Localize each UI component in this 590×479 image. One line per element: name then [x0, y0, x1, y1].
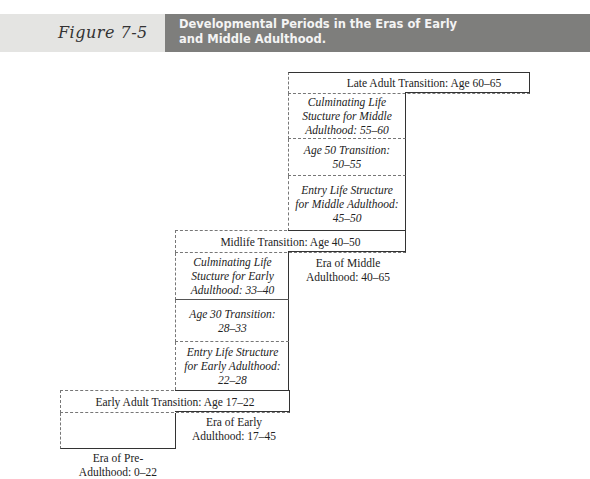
- culminating-middle-box: Culminating Life Stucture for Middle Adu…: [288, 93, 406, 139]
- text-line: Culminating Life: [302, 95, 392, 109]
- era-early-label: Era of Early Adulthood: 17–45: [178, 415, 290, 443]
- early-transition-top-solid: [175, 390, 290, 391]
- culminating-early-box: Culminating Life Stucture for Early Adul…: [175, 253, 289, 300]
- age-30-transition-box: Age 30 Transition: 28–33: [175, 300, 289, 342]
- figure-label-band: Figure 7-5: [0, 14, 165, 52]
- text-line: 45–50: [295, 211, 398, 225]
- early-adult-transition-label: Early Adult Transition: Age 17–22: [95, 395, 254, 409]
- figure-label: Figure 7-5: [58, 23, 148, 42]
- midlife-transition-label: Midlife Transition: Age 40–50: [220, 235, 360, 249]
- late-adult-transition-box: Late Adult Transition: Age 60–65: [288, 72, 530, 94]
- pre-adulthood-box: [60, 413, 176, 449]
- figure-title: Developmental Periods in the Eras of Ear…: [179, 17, 499, 47]
- text-line: Stucture for Middle: [302, 109, 392, 123]
- early-adult-transition-box: Early Adult Transition: Age 17–22: [60, 390, 290, 413]
- late-transition-bottom-solid: [405, 92, 530, 93]
- text-line: 28–33: [189, 321, 275, 335]
- entry-early-box: Entry Life Structure for Early Adulthood…: [175, 342, 289, 390]
- text-line: Adulthood: 0–22: [60, 465, 176, 479]
- era-pre-label: Era of Pre- Adulthood: 0–22: [60, 451, 176, 479]
- text-line: Age 50 Transition:: [304, 143, 390, 157]
- text-line: Culminating Life: [191, 255, 274, 269]
- text-line: Adulthood: 33–40: [191, 283, 274, 297]
- midlife-transition-box: Midlife Transition: Age 40–50: [175, 230, 406, 253]
- age-50-transition-box: Age 50 Transition: 50–55: [288, 139, 406, 176]
- text-line: for Middle Adulthood:: [295, 197, 398, 211]
- figure-title-line2: and Middle Adulthood.: [179, 32, 499, 47]
- text-line: for Early Adulthood:: [184, 359, 280, 373]
- era-middle-label: Era of Middle Adulthood: 40–65: [290, 256, 406, 284]
- text-line: Adulthood: 55–60: [302, 123, 392, 137]
- text-line: Era of Pre-: [60, 451, 176, 465]
- figure-title-band: Developmental Periods in the Eras of Ear…: [165, 14, 590, 52]
- figure-title-line1: Developmental Periods in the Eras of Ear…: [179, 17, 499, 32]
- midlife-bottom-solid: [288, 251, 406, 252]
- text-line: 50–55: [304, 157, 390, 171]
- text-line: Entry Life Structure: [295, 183, 398, 197]
- text-line: Era of Middle: [290, 256, 406, 270]
- text-line: 22–28: [184, 373, 280, 387]
- text-line: Adulthood: 40–65: [290, 270, 406, 284]
- text-line: Stucture for Early: [191, 269, 274, 283]
- text-line: Era of Early: [178, 415, 290, 429]
- entry-middle-box: Entry Life Structure for Middle Adulthoo…: [288, 176, 406, 231]
- midlife-top-solid: [288, 230, 406, 231]
- text-line: Adulthood: 17–45: [178, 429, 290, 443]
- text-line: Entry Life Structure: [184, 345, 280, 359]
- early-transition-bottom-solid: [175, 411, 290, 412]
- text-line: Age 30 Transition:: [189, 307, 275, 321]
- late-adult-transition-label: Late Adult Transition: Age 60–65: [347, 76, 502, 90]
